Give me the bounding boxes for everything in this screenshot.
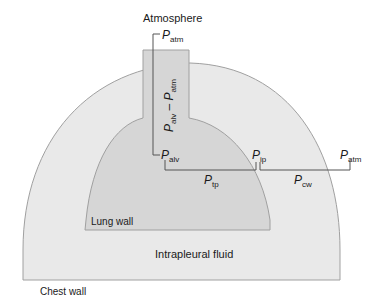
p-atm-right-label: Patm [340,148,362,164]
lung-wall-label: Lung wall [91,216,133,227]
lung-pressure-diagram: Atmosphere Patm Palv – Patm Palv Pip Pat… [0,0,380,307]
atmosphere-label: Atmosphere [143,12,202,24]
intrapleural-fluid-label: Intrapleural fluid [155,248,233,260]
chest-wall-label: Chest wall [40,286,86,297]
p-atm-top-label: Patm [162,28,184,44]
